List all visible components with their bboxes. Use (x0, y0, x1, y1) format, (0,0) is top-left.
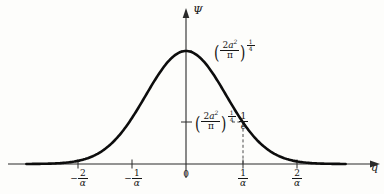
y-axis-arrowhead (183, 8, 190, 18)
inve-close-paren: ) (221, 115, 226, 132)
inve-fraction: 2a2π (201, 110, 220, 132)
peak-fraction: 2a2π (220, 39, 239, 61)
gaussian-wavefunction-figure: Ψ q (2a2π)14 (2a2π)141e −2α −1α 0 1α 2α (0, 0, 384, 194)
inve-fraction-numerator: 2a2 (201, 110, 220, 121)
inve-fraction-denominator: π (201, 121, 220, 132)
tick-label-two-over-alpha: 2α (287, 168, 307, 188)
peak-fraction-denominator: π (220, 50, 239, 61)
tick-label-minus-one-over-alpha: −1α (120, 168, 146, 188)
tick-label-minus-two-over-alpha: −2α (66, 168, 92, 188)
inve-tail-fraction: 1e (239, 112, 249, 132)
peak-exponent: 14 (247, 39, 255, 52)
peak-fraction-numerator: 2a2 (220, 39, 239, 50)
peak-open-paren: ( (214, 44, 219, 61)
inve-exponent: 14 (228, 110, 236, 123)
plot-canvas (0, 0, 384, 194)
tick-label-one-over-alpha: 1α (233, 168, 253, 188)
peak-amplitude-label: (2a2π)14 (213, 38, 255, 61)
tick-label-zero: 0 (179, 170, 193, 179)
one-over-e-amplitude-label: (2a2π)141e (194, 109, 248, 132)
x-axis-label: q (371, 162, 378, 173)
inve-open-paren: ( (195, 115, 200, 132)
peak-close-paren: ) (240, 44, 245, 61)
y-axis-label: Ψ (193, 5, 203, 16)
